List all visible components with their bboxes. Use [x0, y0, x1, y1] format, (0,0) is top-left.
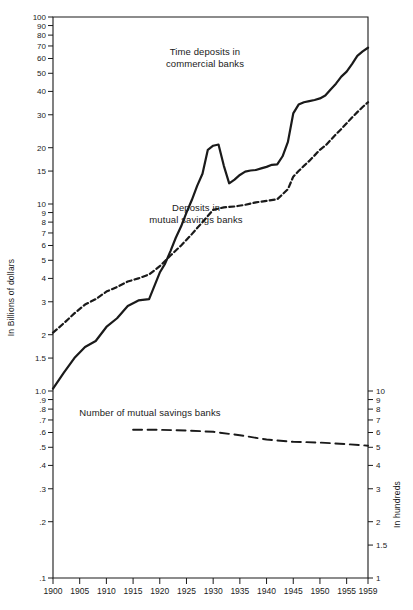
chart-background	[0, 0, 413, 610]
y-axis-tick-label: .9	[39, 396, 46, 405]
y-axis-tick-label: .5	[39, 443, 46, 452]
x-axis-tick-label: 1930	[204, 586, 223, 596]
y-axis-tick-label: 5	[42, 256, 47, 265]
y-axis-tick-label: 6	[42, 241, 47, 250]
y-axis-tick-label: .8	[39, 405, 46, 414]
x-axis-tick-label: 1905	[70, 586, 89, 596]
annot-time-deposits-line: commercial banks	[166, 58, 244, 69]
y-axis-tick-label: 50	[37, 69, 46, 78]
y-axis-tick-label: 7	[42, 229, 47, 238]
annot-mutual-savings-line: Deposits in	[172, 202, 220, 213]
y-axis-tick-label: 4	[42, 274, 47, 283]
x-axis-tick-label: 1945	[284, 586, 303, 596]
y-axis-tick-label: 9	[42, 209, 47, 218]
right-y-axis-tick-label: 3	[376, 485, 381, 494]
x-axis-tick-label: 1915	[124, 586, 143, 596]
y-axis-title: In Billions of dollars	[6, 259, 16, 337]
x-axis-tick-label: 1925	[177, 586, 196, 596]
annot-bank-count: Number of mutual savings banks	[79, 407, 220, 418]
y-axis-tick-label: 8	[42, 218, 47, 227]
annot-mutual-savings-line: mutual savings banks	[149, 214, 243, 225]
annot-time-deposits-line: Time deposits in	[170, 46, 240, 57]
y-axis-tick-label: .4	[39, 461, 46, 470]
x-axis-tick-label: 1940	[257, 586, 276, 596]
x-axis-tick-label: 1950	[310, 586, 329, 596]
right-y-axis-tick-label: 1	[376, 574, 381, 583]
right-y-axis-tick-label: 4	[376, 461, 381, 470]
y-axis-tick-label: 20	[37, 144, 46, 153]
y-axis-tick-label: .2	[39, 518, 46, 527]
y-axis-tick-label: 60	[37, 54, 46, 63]
right-y-axis-tick-label: 6	[376, 428, 381, 437]
right-y-axis-tick-label: 9	[376, 396, 381, 405]
annot-bank-count-line: Number of mutual savings banks	[79, 407, 220, 418]
x-axis-tick-label: 1935	[230, 586, 249, 596]
x-axis-tick-label: 1920	[150, 586, 169, 596]
y-axis-tick-label: 15	[37, 167, 46, 176]
x-axis-tick-label: 1959	[359, 586, 378, 596]
x-axis-tick-label: 1900	[44, 586, 63, 596]
right-y-axis-tick-label: 7	[376, 416, 381, 425]
x-axis-tick-label: 1910	[97, 586, 116, 596]
y-axis-tick-label: 90	[37, 22, 46, 31]
y-axis-tick-label: 30	[37, 111, 46, 120]
right-y-axis-tick-label: 1.5	[376, 541, 388, 550]
y-axis-tick-label: 70	[37, 42, 46, 51]
line-chart: 10090807060504030201510987654321.51.0.9.…	[0, 0, 413, 610]
right-y-axis-tick-label: 2	[376, 518, 381, 527]
right-y-axis-title: In hundreds	[392, 481, 402, 528]
chart-container: 10090807060504030201510987654321.51.0.9.…	[0, 0, 413, 610]
y-axis-tick-label: 2	[42, 331, 47, 340]
y-axis-tick-label: 80	[37, 31, 46, 40]
y-axis-tick-label: 1.5	[35, 354, 47, 363]
right-y-axis-tick-label: 8	[376, 405, 381, 414]
y-axis-tick-label: .7	[39, 416, 46, 425]
y-axis-tick-label: .1	[39, 574, 46, 583]
y-axis-tick-label: 3	[42, 298, 47, 307]
x-axis-tick-label: 1955	[337, 586, 356, 596]
y-axis-tick-label: 40	[37, 87, 46, 96]
right-y-axis-tick-label: 5	[376, 443, 381, 452]
y-axis-tick-label: .3	[39, 485, 46, 494]
annot-time-deposits: Time deposits incommercial banks	[166, 46, 244, 69]
y-axis-tick-label: .6	[39, 428, 46, 437]
